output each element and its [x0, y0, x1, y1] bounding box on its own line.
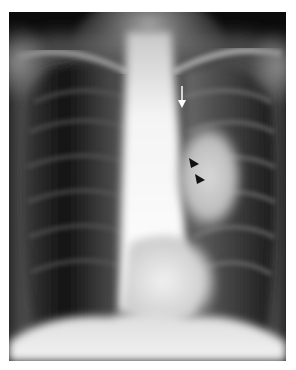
black-arrowhead-icon: [189, 158, 199, 168]
white-arrow-icon: [177, 86, 187, 108]
xray-render: [9, 12, 286, 361]
chest-xray-image: [9, 12, 286, 361]
black-arrowhead-icon: [195, 174, 205, 184]
